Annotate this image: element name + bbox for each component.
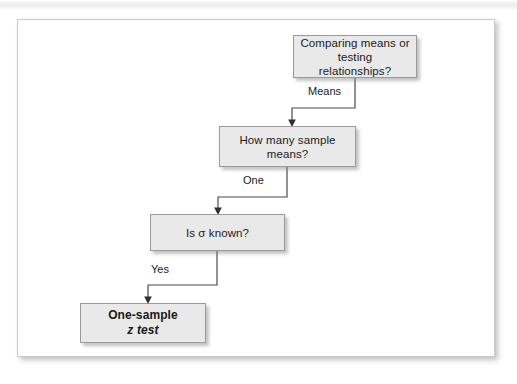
- node-terminal-test-label: z test: [127, 323, 158, 337]
- node-result-one-sample-z[interactable]: One-sample z test: [80, 303, 206, 343]
- edge-label-means: Means: [308, 85, 341, 97]
- node-sample-means-text: How many sample means?: [233, 133, 341, 161]
- edge-label-one: One: [243, 174, 264, 186]
- node-comparing-text: Comparing means or testing relationships…: [294, 36, 416, 78]
- connector-lines: [0, 0, 517, 384]
- node-question-sigma-known[interactable]: Is σ known?: [150, 214, 285, 251]
- flowchart-canvas: Comparing means or testing relationships…: [0, 0, 517, 384]
- node-question-comparing[interactable]: Comparing means or testing relationships…: [293, 35, 417, 78]
- node-terminal-text: One-sample z test: [102, 308, 184, 338]
- node-question-sample-means[interactable]: How many sample means?: [219, 126, 356, 167]
- node-sigma-text: Is σ known?: [180, 226, 255, 240]
- edge-label-yes: Yes: [151, 263, 169, 275]
